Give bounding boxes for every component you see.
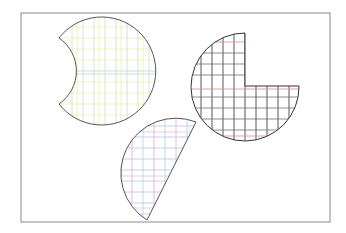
three-quarter-circle-shape [185, 30, 305, 145]
figure-canvas [0, 0, 346, 233]
bitten-circle-shape [50, 15, 165, 130]
half-disk-shape [105, 110, 205, 225]
half-disk-grid [105, 110, 205, 225]
